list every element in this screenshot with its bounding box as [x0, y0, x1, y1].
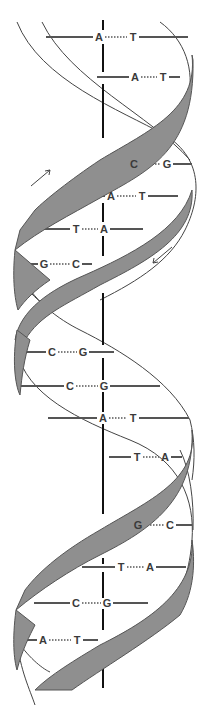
base-right-label: C [72, 259, 80, 270]
base-left-label: G [134, 520, 143, 531]
base-left-label: T [134, 452, 141, 463]
base-right-label: T [130, 413, 137, 424]
base-left-label: C [72, 598, 80, 609]
base-right-label: G [103, 598, 112, 609]
base-right-label: C [166, 520, 174, 531]
base-right-label: A [100, 224, 108, 235]
base-right-label: G [163, 159, 172, 170]
base-right-label: A [161, 452, 169, 463]
base-left-label: A [131, 72, 139, 83]
base-left-label: A [107, 191, 115, 202]
base-right-label: T [139, 191, 146, 202]
base-left-label: C [66, 381, 74, 392]
base-left-label: A [39, 635, 47, 646]
base-left-label: C [48, 347, 56, 358]
base-left-label: A [95, 32, 103, 43]
base-left-label: A [99, 413, 107, 424]
base-left-label: T [73, 224, 80, 235]
base-right-label: G [79, 347, 88, 358]
base-right-label: A [146, 562, 154, 573]
base-right-label: T [160, 72, 167, 83]
base-right-label: G [100, 381, 109, 392]
base-left-label: C [130, 159, 138, 170]
base-right-label: T [130, 32, 137, 43]
base-left-label: G [40, 259, 49, 270]
base-right-label: T [74, 635, 81, 646]
base-left-label: T [118, 562, 125, 573]
arrow-up-right-icon [31, 170, 50, 186]
